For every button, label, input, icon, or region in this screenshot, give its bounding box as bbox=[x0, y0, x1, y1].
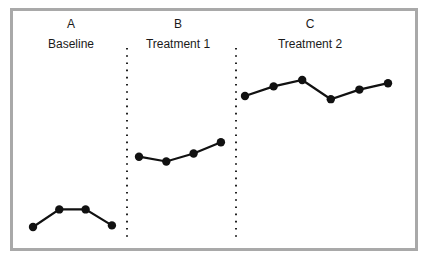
phase-label-treatment-2: Treatment 2 bbox=[278, 37, 343, 51]
data-point-b-2 bbox=[162, 157, 170, 165]
data-point-c-1 bbox=[241, 92, 249, 100]
phase-label-baseline: Baseline bbox=[48, 37, 94, 51]
data-point-c-5 bbox=[355, 85, 363, 93]
data-point-b-1 bbox=[135, 152, 143, 160]
data-point-b-3 bbox=[189, 149, 197, 157]
phase-label-treatment-1: Treatment 1 bbox=[146, 37, 211, 51]
series-line-b bbox=[139, 142, 221, 161]
data-point-a-4 bbox=[108, 221, 116, 229]
data-point-c-3 bbox=[298, 76, 306, 84]
data-series bbox=[29, 76, 392, 231]
data-point-a-2 bbox=[55, 205, 63, 213]
series-line-a bbox=[33, 209, 112, 227]
phase-letter-b: B bbox=[174, 17, 182, 31]
series-line-c bbox=[245, 80, 388, 99]
data-point-a-3 bbox=[81, 205, 89, 213]
single-case-design-chart: A B C Baseline Treatment 1 Treatment 2 bbox=[0, 0, 423, 257]
data-point-c-2 bbox=[269, 82, 277, 90]
phase-letter-c: C bbox=[306, 17, 315, 31]
data-point-a-1 bbox=[29, 223, 37, 231]
phase-letter-a: A bbox=[67, 17, 75, 31]
data-point-c-6 bbox=[384, 79, 392, 87]
data-point-b-4 bbox=[217, 138, 225, 146]
data-point-c-4 bbox=[327, 95, 335, 103]
